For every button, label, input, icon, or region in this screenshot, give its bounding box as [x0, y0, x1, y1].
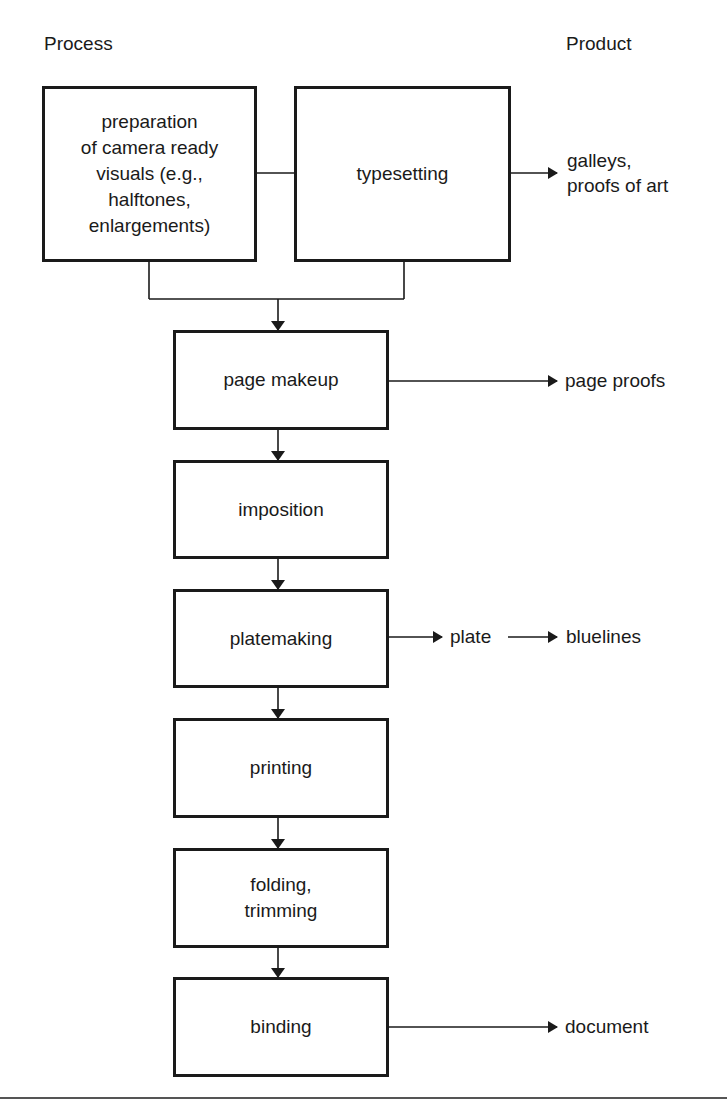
step-label-line: enlargements)	[81, 213, 218, 239]
step-label: imposition	[238, 497, 324, 523]
step-folding-trimming: folding, trimming	[173, 848, 389, 948]
step-label-line: visuals (e.g.,	[81, 161, 218, 187]
step-imposition: imposition	[173, 460, 389, 559]
step-printing: printing	[173, 718, 389, 818]
step-label: binding	[250, 1014, 311, 1040]
step-typesetting: typesetting	[294, 86, 511, 262]
product-line: galleys,	[567, 148, 668, 173]
process-column-header: Process	[44, 33, 113, 55]
step-binding: binding	[173, 977, 389, 1077]
step-label-line: halftones,	[81, 187, 218, 213]
step-page-makeup: page makeup	[173, 330, 389, 430]
step-label-line: of camera ready	[81, 135, 218, 161]
step-label: typesetting	[357, 161, 449, 187]
product-column-header: Product	[566, 33, 631, 55]
product-bluelines: bluelines	[566, 624, 641, 649]
step-platemaking: platemaking	[173, 589, 389, 688]
product-line: proofs of art	[567, 173, 668, 198]
product-document: document	[565, 1014, 648, 1039]
product-plate: plate	[450, 624, 491, 649]
step-label-line: preparation	[81, 109, 218, 135]
step-preparation: preparation of camera ready visuals (e.g…	[42, 86, 257, 262]
step-label: page makeup	[223, 367, 338, 393]
step-label: platemaking	[230, 626, 332, 652]
product-galleys-proofs: galleys, proofs of art	[567, 148, 668, 198]
step-label-line: trimming	[245, 898, 318, 924]
step-label-line: folding,	[245, 872, 318, 898]
step-label: printing	[250, 755, 312, 781]
product-page-proofs: page proofs	[565, 368, 665, 393]
